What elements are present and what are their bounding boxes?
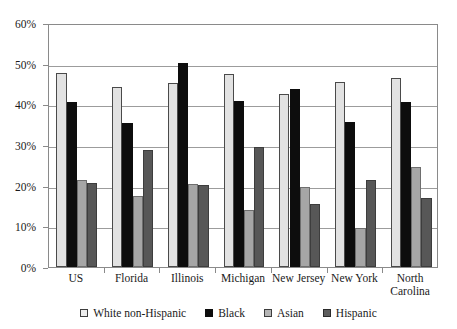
bar <box>244 210 254 267</box>
bar <box>345 122 355 267</box>
bar <box>67 102 77 268</box>
bar <box>234 101 244 267</box>
bar <box>168 83 178 267</box>
legend-label: Black <box>218 307 245 320</box>
y-axis-tick-label: 40% <box>0 99 36 111</box>
legend-swatch-hispanic-icon <box>323 309 331 317</box>
bar-group <box>328 25 384 267</box>
bar <box>411 167 421 267</box>
bar <box>279 94 289 267</box>
bar <box>87 183 97 267</box>
legend-label: White non-Hispanic <box>93 307 186 320</box>
y-axis-tick-label: 0% <box>0 262 36 274</box>
y-axis-labels: 0%10%20%30%40%50%60% <box>0 24 44 268</box>
bar <box>355 228 365 267</box>
bar <box>401 102 411 267</box>
y-axis-tick-label: 60% <box>0 18 36 30</box>
bar-chart-figure: 0%10%20%30%40%50%60% USFloridaIllinoisMi… <box>0 0 457 329</box>
legend-item[interactable]: White non-Hispanic <box>80 307 186 320</box>
bar-group <box>272 25 328 267</box>
x-axis-labels: USFloridaIllinoisMichiganNew JerseyNew Y… <box>48 272 438 306</box>
bar <box>133 196 143 267</box>
x-axis-tick-label: New Jersey <box>272 272 325 285</box>
bar <box>56 73 66 267</box>
bar <box>421 198 431 267</box>
bar <box>391 78 401 267</box>
bar <box>224 74 234 267</box>
bar <box>335 82 345 267</box>
bar <box>310 204 320 267</box>
legend-swatch-black-icon <box>205 309 213 317</box>
bar <box>290 89 300 267</box>
y-axis-tick-label: 10% <box>0 221 36 233</box>
chart-legend: White non-HispanicBlackAsianHispanic <box>0 303 457 323</box>
bar <box>77 180 87 267</box>
x-axis-tick-label: North Carolina <box>390 272 430 298</box>
x-axis-tick-label: Florida <box>115 272 148 285</box>
bar <box>366 180 376 267</box>
y-axis-tick-label: 30% <box>0 140 36 152</box>
x-axis-tick-label: New York <box>331 272 378 285</box>
legend-item[interactable]: Hispanic <box>323 307 377 320</box>
bar <box>122 123 132 267</box>
legend-item[interactable]: Black <box>205 307 245 320</box>
bar <box>143 150 153 267</box>
bar-group <box>49 25 105 267</box>
bar <box>178 63 188 267</box>
bar <box>188 184 198 267</box>
bar-group <box>160 25 216 267</box>
y-axis-tick-label: 50% <box>0 59 36 71</box>
legend-label: Asian <box>277 307 304 320</box>
plot-area <box>48 24 438 268</box>
bar <box>112 87 122 267</box>
bar <box>254 147 264 267</box>
x-axis-tick-label: Illinois <box>171 272 204 285</box>
bar-group <box>216 25 272 267</box>
bar <box>198 185 208 267</box>
legend-item[interactable]: Asian <box>264 307 304 320</box>
legend-swatch-asian-icon <box>264 309 272 317</box>
y-axis-tick-label: 20% <box>0 181 36 193</box>
legend-label: Hispanic <box>336 307 377 320</box>
x-axis-tick-label: Michigan <box>221 272 265 285</box>
legend-swatch-white-nh-icon <box>80 309 88 317</box>
bar <box>300 187 310 267</box>
bar-group <box>383 25 439 267</box>
bar-group <box>105 25 161 267</box>
x-axis-tick-label: US <box>68 272 83 285</box>
